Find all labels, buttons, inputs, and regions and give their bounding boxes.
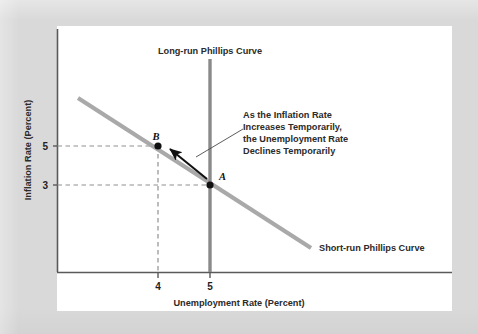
y-axis-title: Inflation Rate (Percent): [23, 100, 33, 201]
annotation-line-1: As the Inflation Rate: [243, 110, 332, 120]
annotation-line-3: the Unemployment Rate: [243, 134, 348, 144]
point-b-label: B: [151, 131, 159, 142]
annotation-line-2: Increases Temporarily,: [243, 122, 342, 132]
y-tick-label-5: 5: [42, 141, 48, 152]
annotation-block: As the Inflation Rate Increases Temporar…: [243, 110, 348, 156]
annotation-line-4: Declines Temporarily: [243, 146, 336, 156]
y-tick-label-3: 3: [42, 180, 48, 191]
data-point-a: [206, 181, 213, 188]
short-run-curve-label: Short-run Phillips Curve: [319, 243, 425, 253]
guide-lines-group: [58, 146, 211, 272]
point-a-label: A: [218, 171, 226, 182]
data-point-b: [154, 142, 161, 149]
long-run-curve-label: Long-run Phillips Curve: [158, 46, 262, 56]
x-tick-label-5: 5: [207, 281, 213, 292]
phillips-curve-figure: B A Long-run Phillips Curve Short-run Ph…: [0, 0, 478, 334]
x-axis-title: Unemployment Rate (Percent): [173, 298, 304, 308]
x-tick-label-4: 4: [155, 281, 161, 292]
short-run-phillips-curve: [78, 98, 311, 248]
annotation-leader-line: [196, 129, 243, 157]
phillips-curve-chart: B A Long-run Phillips Curve Short-run Ph…: [0, 0, 478, 334]
